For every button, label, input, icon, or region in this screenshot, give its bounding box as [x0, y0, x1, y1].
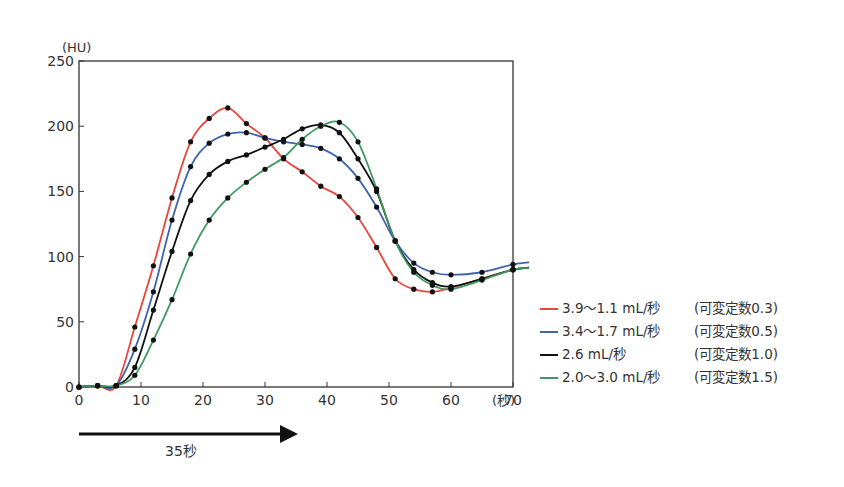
duration-arrow-label: 35秒 [165, 440, 197, 460]
data-point [169, 249, 174, 254]
legend: 3.9〜1.1 mL/秒 (可変定数0.3) 3.4〜1.7 mL/秒 (可変定… [540, 297, 778, 389]
x-tick-label: 50 [380, 392, 398, 408]
data-point [337, 120, 342, 125]
data-point [510, 262, 515, 267]
data-point [411, 287, 416, 292]
legend-item: 2.6 mL/秒 (可変定数1.0) [540, 343, 778, 366]
data-point [300, 169, 305, 174]
data-point [244, 130, 249, 135]
data-point [300, 142, 305, 147]
data-point [262, 135, 267, 140]
data-point [169, 297, 174, 302]
data-point [448, 272, 453, 277]
data-point [114, 383, 119, 388]
legend-swatch-blue [540, 331, 558, 333]
legend-swatch-black [540, 354, 558, 356]
chart-canvas: (HU) 050100150200250 010203040506070 (秒) [0, 0, 844, 487]
data-point [430, 270, 435, 275]
data-point [244, 121, 249, 126]
data-point [132, 347, 137, 352]
series-line [79, 108, 529, 390]
data-point [132, 365, 137, 370]
data-point [207, 116, 212, 121]
y-tick-label: 50 [56, 314, 74, 330]
data-point [337, 156, 342, 161]
legend-swatch-green [540, 377, 558, 379]
y-tick-label: 200 [47, 118, 74, 134]
data-point [510, 267, 515, 272]
data-point [374, 245, 379, 250]
data-point [393, 276, 398, 281]
data-point [430, 289, 435, 294]
data-point [355, 215, 360, 220]
series-line [79, 125, 529, 387]
data-point [337, 130, 342, 135]
data-point [355, 176, 360, 181]
data-point [207, 217, 212, 222]
data-point [411, 270, 416, 275]
data-point [393, 238, 398, 243]
data-point [188, 139, 193, 144]
series-lines [79, 108, 529, 390]
data-point [244, 180, 249, 185]
data-point [374, 186, 379, 191]
x-axis: 010203040506070 [75, 382, 522, 408]
data-point [225, 131, 230, 136]
y-tick-label: 150 [47, 183, 74, 199]
x-tick-label: 40 [318, 392, 336, 408]
data-point [225, 105, 230, 110]
data-point [244, 152, 249, 157]
data-point [95, 383, 100, 388]
y-tick-label: 100 [47, 249, 74, 265]
x-tick-label: 0 [75, 392, 84, 408]
data-point [355, 139, 360, 144]
data-point [169, 195, 174, 200]
data-point [300, 137, 305, 142]
x-tick-label: 20 [194, 392, 212, 408]
data-point [318, 146, 323, 151]
legend-item: 2.0〜3.0 mL/秒 (可変定数1.5) [540, 366, 778, 389]
data-point [151, 307, 156, 312]
data-point [151, 337, 156, 342]
y-tick-label: 0 [65, 379, 74, 395]
data-point [337, 194, 342, 199]
data-point [281, 137, 286, 142]
series-line [79, 121, 529, 387]
data-point [151, 289, 156, 294]
data-point [76, 384, 81, 389]
x-axis-unit: (秒) [492, 393, 515, 408]
data-point [374, 204, 379, 209]
legend-item: 3.4〜1.7 mL/秒 (可変定数0.5) [540, 320, 778, 343]
data-point [262, 167, 267, 172]
x-tick-label: 30 [256, 392, 274, 408]
data-point [151, 263, 156, 268]
legend-item: 3.9〜1.1 mL/秒 (可変定数0.3) [540, 297, 778, 320]
data-point [188, 164, 193, 169]
data-point [300, 126, 305, 131]
data-point [132, 373, 137, 378]
data-point [281, 155, 286, 160]
data-point [448, 287, 453, 292]
y-tick-label: 250 [47, 53, 74, 69]
data-point [207, 141, 212, 146]
data-point [188, 251, 193, 256]
data-point [479, 277, 484, 282]
data-point [430, 283, 435, 288]
data-point [169, 217, 174, 222]
data-point [207, 172, 212, 177]
data-point [225, 159, 230, 164]
data-point [479, 270, 484, 275]
data-point [262, 144, 267, 149]
data-point [132, 324, 137, 329]
data-point [188, 198, 193, 203]
legend-swatch-red [540, 308, 558, 310]
data-point [318, 124, 323, 129]
x-tick-label: 60 [442, 392, 460, 408]
data-point [355, 156, 360, 161]
data-point [411, 261, 416, 266]
data-point [225, 195, 230, 200]
x-tick-label: 10 [132, 392, 150, 408]
data-point [318, 184, 323, 189]
